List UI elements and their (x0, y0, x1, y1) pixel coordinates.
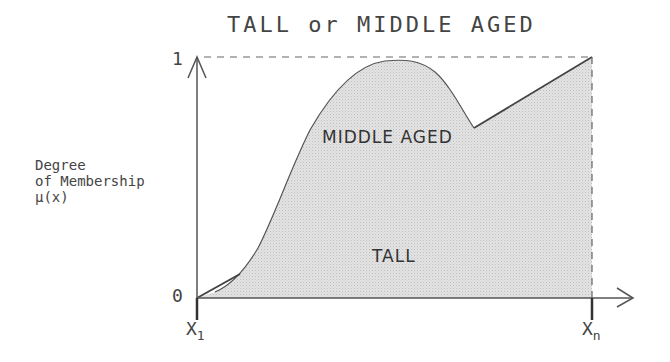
x-tick-start: X1 (186, 318, 205, 343)
tall-label: TALL (372, 246, 416, 266)
y-label-line-3: μ(x) (35, 189, 69, 205)
x-start-label: X (186, 318, 197, 339)
y-tick-one: 1 (172, 48, 183, 69)
x-start-sub: 1 (197, 328, 205, 343)
y-tick-zero: 0 (172, 285, 183, 306)
x-end-sub: n (593, 328, 601, 343)
x-tick-end: Xn (582, 318, 601, 343)
x-end-label: X (582, 318, 593, 339)
y-label-line-1: Degree (35, 157, 86, 173)
middle-aged-label: MIDDLE AGED (322, 127, 453, 147)
y-axis-label: Degree of Membership μ(x) (35, 157, 145, 205)
y-label-line-2: of Membership (35, 173, 145, 189)
